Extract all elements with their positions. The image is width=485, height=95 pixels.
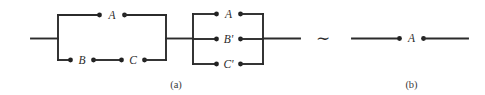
equivalence-symbol: ∼	[316, 29, 330, 48]
label-contact-b-prime: B'	[224, 33, 234, 45]
circuit-figure: A B C A B' C' ∼ A (a) (b)	[0, 0, 485, 95]
caption-panel-b: (b)	[405, 79, 418, 91]
label-contact-c-prime: C'	[223, 58, 234, 70]
contact-node-a3-left	[397, 36, 402, 41]
contact-node-bprime-left	[214, 37, 219, 42]
contact-node-b-left	[68, 58, 73, 63]
network-1-group	[31, 13, 166, 63]
circuit-canvas: A B C A B' C' ∼ A (a) (b)	[0, 0, 485, 95]
contact-node-a-left	[97, 13, 102, 18]
label-contact-a3: A	[407, 32, 416, 44]
label-contact-b: B	[78, 54, 85, 66]
network-2-group	[193, 12, 300, 67]
contact-node-cprime-left	[214, 62, 219, 67]
label-contact-a2: A	[224, 8, 233, 20]
caption-panel-a: (a)	[170, 79, 182, 91]
label-contact-c: C	[129, 54, 137, 66]
contact-node-a2-left	[214, 12, 219, 17]
label-contact-a: A	[107, 9, 116, 21]
contact-node-c-left	[119, 58, 124, 63]
